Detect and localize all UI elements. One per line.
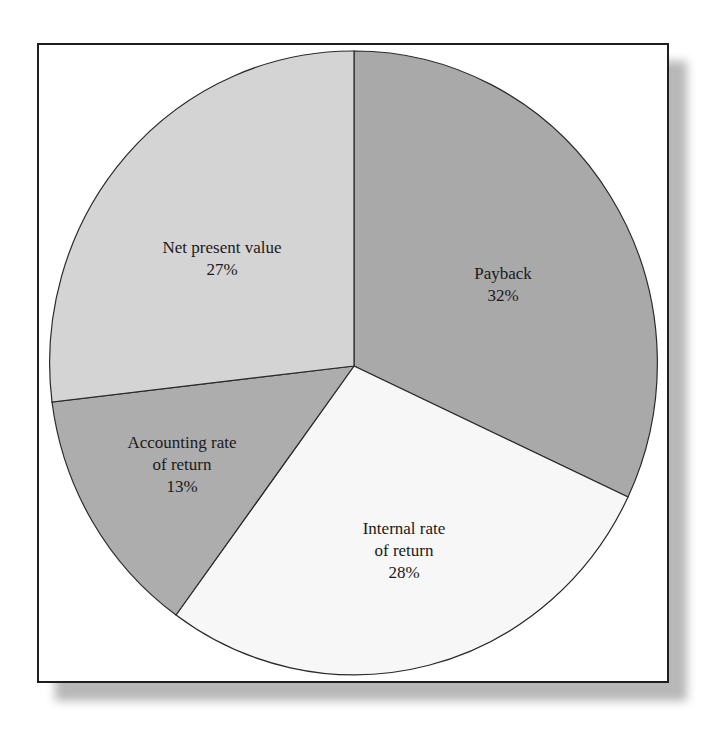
slice-label-text: of return [127, 454, 236, 476]
slice-label-text: Net present value [163, 237, 282, 259]
label-accounting-rate-of-return: Accounting rate of return 13% [127, 432, 236, 498]
pie-chart [0, 0, 711, 732]
label-internal-rate-of-return: Internal rate of return 28% [363, 518, 446, 584]
slice-percentage: 32% [474, 285, 532, 307]
slice-percentage: 28% [363, 562, 446, 584]
slice-label-text: Internal rate [363, 518, 446, 540]
label-payback: Payback 32% [474, 263, 532, 307]
slice-net-present-value [50, 51, 354, 402]
slice-label-text: Payback [474, 263, 532, 285]
label-net-present-value: Net present value 27% [163, 237, 282, 281]
slice-label-text: Accounting rate [127, 432, 236, 454]
slice-percentage: 13% [127, 476, 236, 498]
slice-percentage: 27% [163, 259, 282, 281]
slice-label-text: of return [363, 540, 446, 562]
